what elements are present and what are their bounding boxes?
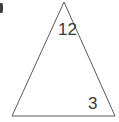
bottom-right-angle-label: 3 — [88, 95, 97, 112]
geometry-figure: 12 3 — [0, 0, 119, 122]
apex-angle-label: 12 — [58, 21, 77, 38]
triangle-svg — [0, 0, 119, 122]
